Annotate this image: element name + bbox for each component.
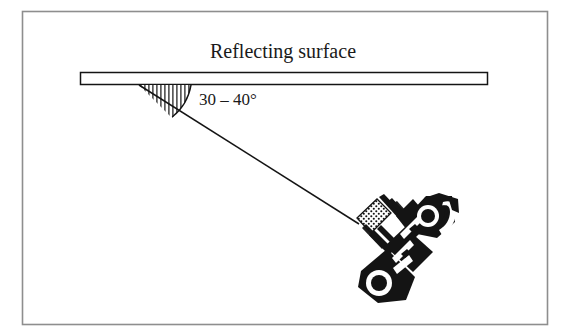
- reflecting-surface-title: Reflecting surface: [210, 40, 356, 63]
- stylized-bird-petroglyph: [357, 193, 459, 303]
- petroglyph-eye-pupil: [421, 209, 435, 223]
- diagram-canvas: Reflecting surface 30 – 40°: [0, 0, 564, 335]
- angle-value-label: 30 – 40°: [199, 90, 257, 109]
- reflecting-surface-bar: [81, 73, 488, 85]
- petroglyph-foot-ring-inner: [371, 275, 387, 291]
- reflecting-surface-diagram: Reflecting surface 30 – 40°: [0, 0, 564, 335]
